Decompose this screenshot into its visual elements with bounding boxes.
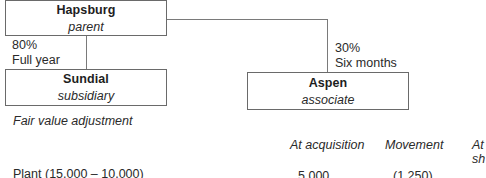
- subsidiary-name: Sundial: [6, 71, 166, 88]
- row-plant-at-acquisition: 5,000: [298, 168, 329, 178]
- parent-name: Hapsburg: [6, 2, 166, 19]
- subsidiary-role: subsidiary: [6, 88, 166, 104]
- associate-box: Aspen associate: [247, 72, 409, 110]
- row-plant-movement: (1,250): [393, 168, 433, 178]
- parent-company-box: Hapsburg parent: [5, 0, 167, 36]
- subsidiary-period: Full year: [12, 52, 60, 68]
- column-at-acquisition: At acquisition: [290, 137, 364, 153]
- column-movement: Movement: [385, 137, 443, 153]
- connector-parent-subsidiary: [86, 36, 87, 69]
- column-at-reporting-cont: sh: [472, 151, 485, 167]
- subsidiary-box: Sundial subsidiary: [5, 69, 167, 106]
- fair-value-heading: Fair value adjustment: [13, 113, 133, 129]
- associate-holding: 30%: [335, 40, 360, 56]
- associate-period: Six months: [335, 55, 397, 71]
- associate-name: Aspen: [248, 75, 408, 92]
- row-label-plant: Plant (15,000 – 10,000): [13, 166, 144, 178]
- parent-role: parent: [6, 19, 166, 35]
- subsidiary-holding: 80%: [12, 37, 37, 53]
- connector-parent-associate-vertical: [327, 19, 328, 72]
- associate-role: associate: [248, 92, 408, 108]
- connector-parent-associate-horizontal: [167, 19, 328, 20]
